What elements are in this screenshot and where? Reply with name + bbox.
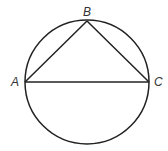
label-point-a: A (10, 75, 19, 89)
label-point-c: C (154, 75, 163, 89)
segment-ab (25, 21, 87, 82)
geometry-diagram: A B C (0, 0, 168, 151)
label-point-b: B (83, 5, 91, 19)
segment-bc (87, 21, 149, 82)
